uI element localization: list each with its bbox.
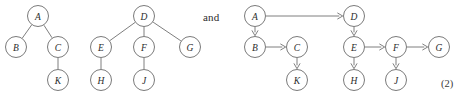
node-F[interactable]: F [134,37,155,58]
node-D[interactable]: D [134,6,155,27]
node-G[interactable]: G [180,37,201,58]
graph-figure: ABCKDEFGHJABCKDEFGHJ and (2) [0,0,468,99]
node-label-D: D [140,12,148,22]
node-label-G: G [436,43,443,53]
node-H[interactable]: H [344,70,365,91]
node-K[interactable]: K [48,70,69,91]
node-label-D: D [350,12,358,22]
node-label-F: F [392,43,399,53]
node-label-B: B [13,43,19,53]
node-C[interactable]: C [287,37,308,58]
node-label-B: B [252,43,258,53]
edge-D-E [110,22,135,40]
directed-acyclic-graph: ABCKDEFGHJ [245,6,450,91]
forest-tree-d: DEFGHJ [91,6,201,91]
node-label-K: K [293,76,301,86]
node-A[interactable]: A [245,6,266,27]
edge-A-B [22,25,31,38]
equation-number-label: (2) [441,78,453,89]
node-label-H: H [350,76,359,86]
node-label-K: K [54,76,62,86]
node-label-A: A [251,12,258,22]
graph-canvas: ABCKDEFGHJABCKDEFGHJ [0,0,468,99]
node-label-E: E [97,43,104,53]
node-K[interactable]: K [287,70,308,91]
node-G[interactable]: G [429,37,450,58]
conjunction-label: and [203,11,219,23]
node-label-G: G [187,43,194,53]
edge-A-C [44,25,52,38]
node-H[interactable]: H [91,70,112,91]
edge-D-G [153,22,181,41]
node-E[interactable]: E [344,37,365,58]
node-J[interactable]: J [386,70,407,91]
node-label-F: F [140,43,147,53]
node-label-C: C [55,43,62,53]
node-A[interactable]: A [28,6,49,27]
node-label-A: A [34,12,41,22]
forest-tree-a: ABCK [6,6,69,91]
node-F[interactable]: F [386,37,407,58]
node-E[interactable]: E [91,37,112,58]
node-B[interactable]: B [245,37,266,58]
node-C[interactable]: C [48,37,69,58]
node-J[interactable]: J [134,70,155,91]
node-label-C: C [294,43,301,53]
node-label-H: H [97,76,106,86]
node-D[interactable]: D [344,6,365,27]
node-B[interactable]: B [6,37,27,58]
node-label-E: E [350,43,357,53]
